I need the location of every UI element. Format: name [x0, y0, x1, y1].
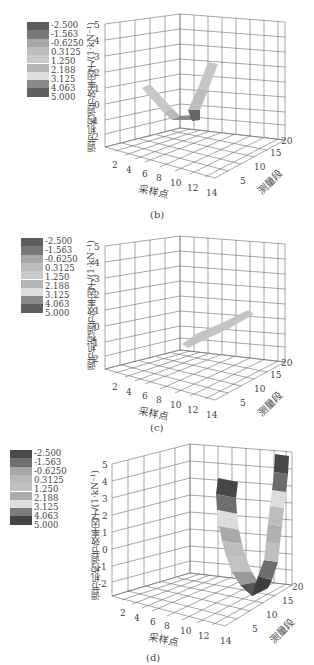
z-tick: 5 — [94, 20, 100, 30]
z-tick: 4 — [94, 258, 100, 268]
x-axis-label: 采样点 — [148, 630, 180, 648]
x-tick: 8 — [156, 173, 162, 183]
x-tick: 4 — [126, 165, 132, 175]
z-tick: -2 — [90, 354, 99, 364]
z-tick: 5 — [94, 242, 100, 252]
z-tick: 5 — [102, 460, 108, 470]
z-tick: 3 — [94, 52, 100, 62]
y-tick: 10 — [254, 384, 266, 394]
z-tick: 3 — [94, 274, 100, 284]
x-axis-label: 采样点 — [138, 182, 170, 200]
x-tick: 4 — [126, 387, 132, 397]
surface-plot-d: 5 4 3 2 1 0 -1 -2 2 4 6 8 10 12 14 5 10 … — [0, 430, 314, 665]
surface-plot-c: 5 4 3 2 1 0 -1 -2 2 4 6 8 10 12 14 5 10 … — [0, 222, 314, 432]
x-tick: 12 — [198, 631, 209, 641]
x-axis-label: 采样点 — [138, 404, 170, 422]
y-tick: 20 — [281, 358, 293, 368]
z-tick: 2 — [94, 290, 100, 300]
caption-b: (b) — [150, 209, 164, 220]
z-tick: 4 — [94, 36, 100, 46]
x-tick: 12 — [187, 183, 198, 193]
x-tick: 6 — [150, 617, 156, 627]
z-tick: 1 — [94, 306, 100, 316]
x-tick: 10 — [170, 400, 182, 410]
z-tick: -1 — [90, 338, 99, 348]
x-tick: 6 — [142, 391, 148, 401]
chart-panel-b: -2.500 -1.563 -0.6250 0.3125 1.250 2.188… — [0, 0, 314, 222]
z-tick: -2 — [98, 579, 107, 589]
caption-d: (d) — [146, 652, 160, 663]
z-tick: 0 — [102, 545, 108, 555]
y-tick: 5 — [240, 176, 246, 186]
x-tick: 14 — [206, 410, 218, 420]
x-tick: 10 — [170, 178, 182, 188]
z-tick: 1 — [94, 84, 100, 94]
z-tick: 2 — [94, 68, 100, 78]
y-tick: 20 — [292, 582, 304, 592]
y-tick: 10 — [254, 162, 266, 172]
x-tick: 2 — [112, 382, 118, 392]
z-tick: 0 — [94, 100, 100, 110]
y-axis-label: 测量段 — [267, 616, 297, 646]
z-tick: 2 — [102, 511, 108, 521]
x-tick: 6 — [142, 169, 148, 179]
y-tick: 15 — [270, 370, 282, 380]
z-tick: 0 — [94, 322, 100, 332]
surface-plot-b: 5 4 3 2 1 0 -1 -2 2 4 6 8 10 12 14 5 10 … — [0, 0, 314, 222]
x-tick: 2 — [112, 160, 118, 170]
chart-panel-d: -2.500 -1.563 -0.6250 0.3125 1.250 2.188… — [0, 430, 314, 665]
x-tick: 14 — [220, 636, 232, 646]
y-tick: 5 — [240, 398, 246, 408]
x-tick: 12 — [187, 405, 198, 415]
y-tick: 15 — [282, 596, 294, 606]
x-tick: 14 — [206, 188, 218, 198]
z-tick: -1 — [90, 116, 99, 126]
x-tick: 4 — [134, 613, 140, 623]
chart-panel-c: -2.500 -1.563 -0.6250 0.3125 1.250 2.188… — [0, 222, 314, 432]
x-tick: 10 — [180, 626, 192, 636]
y-tick: 5 — [252, 624, 258, 634]
z-tick: 3 — [102, 494, 108, 504]
z-tick: 1 — [102, 528, 108, 538]
y-tick: 15 — [270, 148, 282, 158]
z-tick: -2 — [90, 132, 99, 142]
x-tick: 2 — [120, 608, 126, 618]
y-tick: 10 — [266, 610, 278, 620]
x-tick: 8 — [156, 395, 162, 405]
z-tick: 4 — [102, 477, 108, 487]
z-tick: -1 — [98, 562, 107, 572]
y-tick: 20 — [281, 136, 293, 146]
x-tick: 8 — [164, 621, 170, 631]
